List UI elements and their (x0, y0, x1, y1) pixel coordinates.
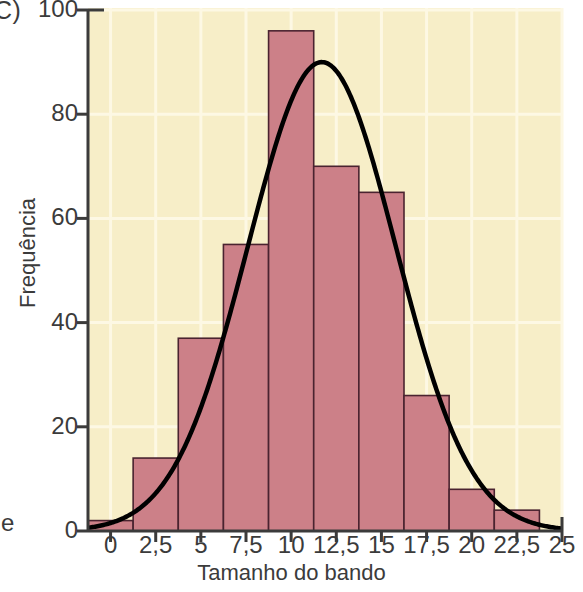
histogram-bar (314, 166, 359, 531)
histogram-bar (223, 244, 268, 531)
histogram-bar (404, 396, 449, 531)
chart-figure: C) e 020406080100 02,557,51012,51517,520… (0, 0, 583, 592)
histogram-plot (0, 0, 583, 592)
y-tick-label: 0 (8, 518, 78, 542)
y-tick-label: 80 (8, 101, 78, 125)
x-tick-label: 25 (522, 533, 583, 557)
y-tick-label: 100 (8, 0, 78, 21)
x-axis-title: Tamanho do bando (0, 560, 583, 586)
y-tick-label: 20 (8, 414, 78, 438)
y-axis-title: Frequência (15, 163, 41, 343)
